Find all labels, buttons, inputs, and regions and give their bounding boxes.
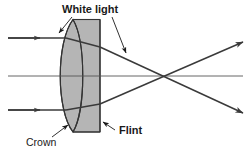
- diagram-canvas: White light Crown Flint: [0, 0, 249, 152]
- flint-leader: [103, 122, 115, 130]
- crown-label: Crown: [26, 136, 57, 148]
- white-light-leader-right: [112, 17, 126, 53]
- lower-refracted-ray: [100, 42, 243, 104]
- upper-refracted-ray: [100, 47, 243, 113]
- flint-label: Flint: [119, 124, 143, 136]
- white-light-label: White light: [62, 3, 119, 15]
- ray-diagram-figure: White light Crown Flint: [0, 0, 249, 152]
